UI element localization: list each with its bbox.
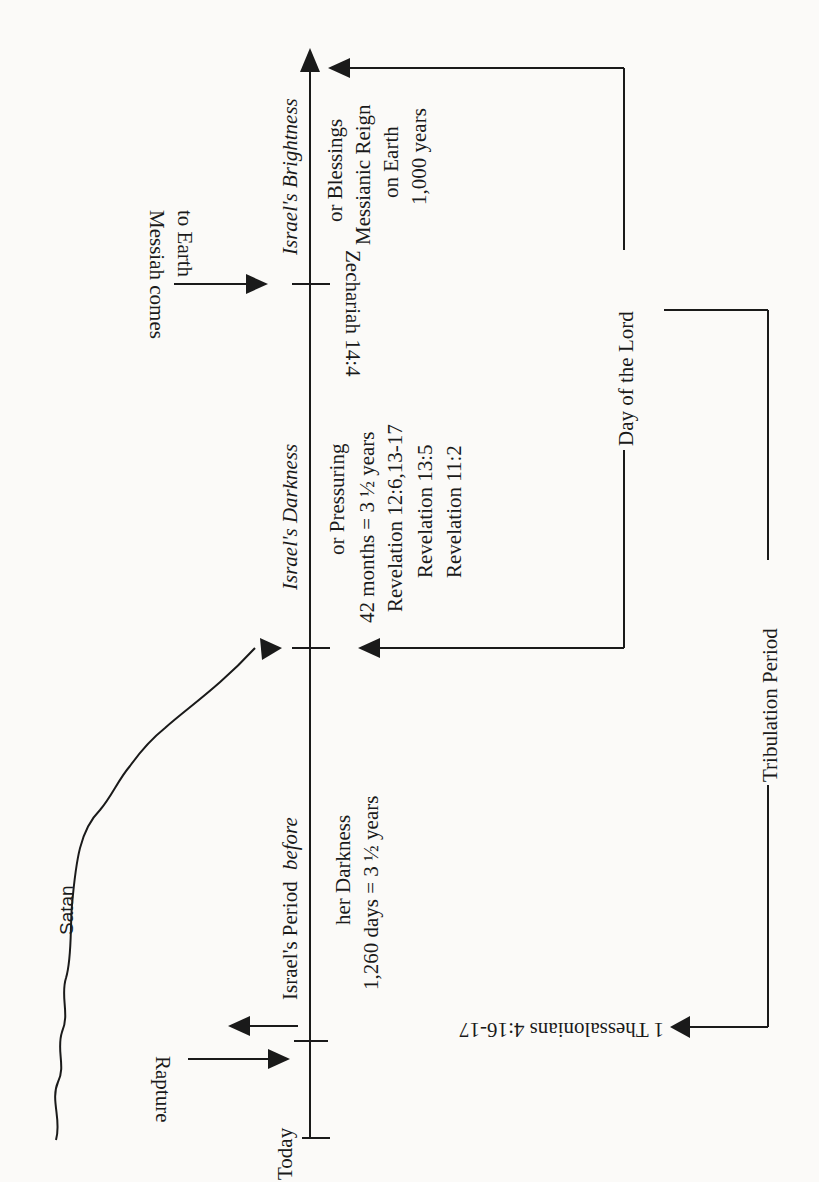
messiah-comes: Messiah comes to Earth <box>145 210 268 339</box>
period-brightness: Israel's Brightness or Blessings Messian… <box>278 98 431 256</box>
period-brightness-line4: on Earth <box>379 126 403 198</box>
thessalonians-ref: 1 Thessalonians 4:16-17 <box>459 1018 664 1042</box>
period-before-darkness: Israel's Period before her Darkness 1,26… <box>278 796 383 1000</box>
period-before-line3: 1,260 days = 3 ½ years <box>359 796 383 990</box>
period-brightness-heading: Israel's Brightness <box>278 98 302 256</box>
arrow-left-icon <box>358 638 380 658</box>
messiah-line2: to Earth <box>173 210 197 278</box>
period-darkness-heading: Israel's Darkness <box>278 444 302 591</box>
messiah-line1: Messiah comes <box>145 210 169 339</box>
axis-arrow-up-icon <box>300 48 320 72</box>
ref-revelation-13: Revelation 13:5 <box>413 444 437 578</box>
ref-revelation-11: Revelation 11:2 <box>442 445 466 578</box>
rapture-label: Rapture <box>151 1056 175 1122</box>
period-brightness-line2: or Blessings <box>323 119 347 222</box>
tribulation-period-label: Tribulation Period <box>758 628 782 782</box>
period-brightness-line3: Messianic Reign <box>351 104 375 245</box>
today-label: Today <box>273 1127 297 1180</box>
satan-label: Satan <box>56 885 77 935</box>
arrow-left-icon <box>228 1016 250 1036</box>
arrow-right-icon <box>260 638 282 660</box>
period-darkness: Israel's Darkness or Pressuring 42 month… <box>278 424 466 623</box>
tribulation-period-bracket: Tribulation Period <box>664 310 782 1038</box>
arrow-left-icon <box>328 58 350 78</box>
rapture-arrows <box>188 1016 298 1069</box>
arrow-right-icon <box>246 274 268 294</box>
period-darkness-line3: 42 months = 3 ½ years <box>355 432 379 624</box>
period-brightness-line5: 1,000 years <box>407 108 431 205</box>
period-before-heading: Israel's Period before <box>278 817 302 1000</box>
period-darkness-line2: or Pressuring <box>325 443 349 555</box>
zechariah-ref: Zechariah 14:4 <box>341 250 365 377</box>
prophetic-timeline-diagram: Today Rapture Satan Israel's Period befo… <box>0 0 819 1182</box>
period-before-line2: her Darkness <box>331 815 355 925</box>
day-of-the-lord-label: Day of the Lord <box>614 311 638 446</box>
ref-revelation-12: Revelation 12:6,13-17 <box>383 424 407 612</box>
arrow-left-icon <box>670 1016 690 1038</box>
arrow-right-icon <box>268 1049 290 1069</box>
